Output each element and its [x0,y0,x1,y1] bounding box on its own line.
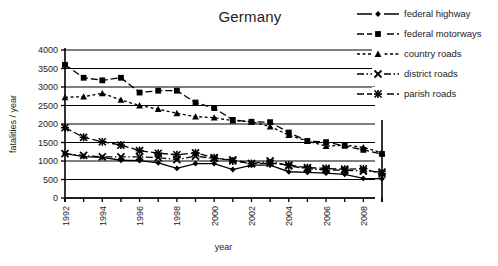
legend-label: country roads [404,49,462,59]
legend-marker-triangle-icon [356,47,400,61]
marker-diamond[interactable] [360,175,366,181]
legend-item-district-roads[interactable]: district roads [356,64,496,84]
legend-item-federal-highway[interactable]: federal highway [356,4,496,24]
marker-square[interactable] [375,31,381,37]
x-tick-label[interactable]: 2004 [284,206,294,226]
y-tick-label[interactable]: 1500 [38,138,58,148]
y-tick-label[interactable]: 0 [53,193,58,203]
y-tick-label[interactable]: 1000 [38,156,58,166]
legend-label: parish roads [404,89,456,99]
legend-item-country-roads[interactable]: country roads [356,44,496,64]
marker-square[interactable] [211,105,217,111]
marker-triangle[interactable] [155,106,162,112]
marker-triangle[interactable] [99,90,106,96]
marker-triangle[interactable] [192,113,199,119]
x-tick-label[interactable]: 2008 [359,206,369,226]
x-tick-label[interactable]: 1994 [98,206,108,226]
marker-square[interactable] [99,77,105,83]
x-tick-label[interactable]: 1998 [172,206,182,226]
y-tick-label[interactable]: 3500 [38,64,58,74]
series-district-roads[interactable] [62,150,386,176]
series-country-roads[interactable] [62,90,386,156]
legend-marker-diamond-icon [356,7,400,21]
marker-diamond[interactable] [286,169,292,175]
marker-square[interactable] [137,90,143,96]
x-tick-label[interactable]: 1996 [135,206,145,226]
legend-marker-asterisk-icon [356,87,400,101]
x-tick-label[interactable]: 2000 [210,206,220,226]
legend-marker-cross-icon [356,67,400,81]
series-line[interactable] [65,65,382,154]
x-tick-label[interactable]: 2002 [247,206,257,226]
marker-square[interactable] [193,100,199,106]
y-tick-label[interactable]: 2000 [38,119,58,129]
series-federal-highway[interactable] [62,151,385,182]
x-tick-label[interactable]: 2006 [322,206,332,226]
x-axis-label[interactable]: year [215,242,233,252]
y-axis-label[interactable]: fatalities / year [8,95,18,153]
y-tick-label[interactable]: 4000 [38,45,58,55]
chart-legend: federal highwayfederal motorwayscountry … [356,4,496,104]
marker-square[interactable] [174,88,180,94]
legend-label: federal highway [404,9,471,19]
chart-figure: Germany 05001000150020002500300035004000… [0,0,498,266]
marker-square[interactable] [62,62,68,68]
legend-marker-square-icon [356,27,400,41]
y-tick-label[interactable]: 3000 [38,82,58,92]
x-tick-label[interactable]: 1992 [61,206,71,226]
legend-label: federal motorways [404,29,482,39]
marker-square[interactable] [81,75,87,81]
y-tick-label[interactable]: 2500 [38,101,58,111]
marker-square[interactable] [155,88,161,94]
marker-diamond[interactable] [193,161,199,167]
legend-item-federal-motorways[interactable]: federal motorways [356,24,496,44]
y-tick-label[interactable]: 500 [43,175,58,185]
marker-triangle[interactable] [80,93,87,99]
legend-label: district roads [404,69,458,79]
series-line[interactable] [65,154,382,179]
marker-diamond[interactable] [230,167,236,173]
marker-square[interactable] [118,75,124,81]
legend-item-parish-roads[interactable]: parish roads [356,84,496,104]
marker-diamond[interactable] [174,166,180,172]
